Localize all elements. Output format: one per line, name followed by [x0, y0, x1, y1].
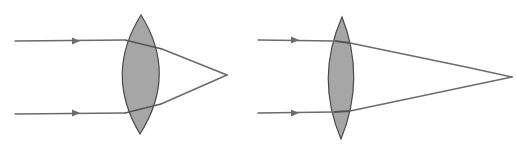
thick-convex-lens [122, 15, 159, 134]
thin-lens-panel [258, 17, 512, 139]
refracted-ray-in-lens [334, 111, 350, 112]
converging-ray [161, 75, 227, 104]
converging-ray [162, 49, 227, 75]
converging-ray [350, 77, 512, 111]
thin-lens-bottom-ray [258, 77, 512, 117]
converging-ray [350, 43, 512, 77]
thin-lens-top-ray [258, 37, 512, 78]
diagram-canvas [0, 0, 516, 148]
thick-lens-panel [15, 15, 227, 134]
thin-convex-lens [328, 17, 354, 139]
thick-lens-top-ray [15, 38, 227, 76]
lens-diagram [0, 0, 516, 148]
thick-lens-bottom-ray [15, 75, 227, 117]
incident-ray [15, 113, 125, 114]
arrow-right-icon [72, 110, 80, 117]
arrow-right-icon [291, 37, 299, 44]
arrow-right-icon [291, 110, 299, 117]
arrow-right-icon [72, 38, 80, 45]
incident-ray [15, 40, 125, 41]
